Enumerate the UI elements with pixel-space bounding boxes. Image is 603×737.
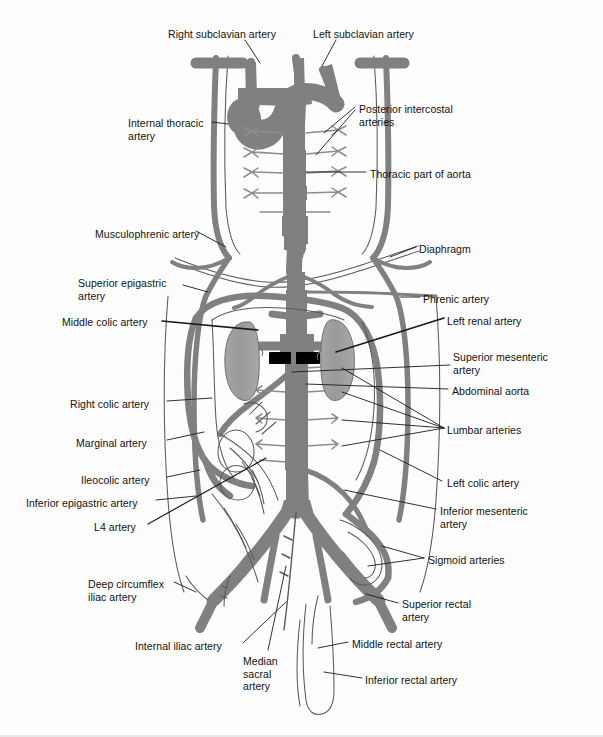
label-inferior-mesenteric-artery: Inferior mesenteric artery	[440, 505, 528, 530]
marker-right-rect	[296, 352, 320, 364]
leader-lumbar-4	[342, 428, 444, 446]
leader-superior-epigastric	[183, 285, 208, 292]
leader-left-subclavian	[322, 40, 336, 66]
label-inferior-epigastric-artery: Inferior epigastric artery	[26, 497, 138, 510]
label-inferior-rectal-artery: Inferior rectal artery	[365, 674, 457, 687]
leader-superior-mesenteric	[292, 365, 450, 372]
label-internal-iliac-artery: Internal iliac artery	[135, 640, 222, 653]
label-musculophrenic-artery: Musculophrenic artery	[95, 228, 199, 241]
phrenic-artery-right	[234, 276, 290, 308]
label-middle-colic-artery: Middle colic artery	[62, 316, 148, 329]
leader-lumbar-1	[342, 368, 444, 428]
leader-internal-iliac	[243, 602, 286, 643]
label-lumbar-arteries: Lumbar arteries	[447, 424, 521, 437]
label-l4-artery: L4 artery	[94, 521, 136, 534]
descending-colon-vessel	[346, 462, 374, 514]
abdominal-aorta-solid	[278, 290, 316, 522]
leader-sigmoid-2	[368, 558, 424, 566]
leader-deep-circumflex	[174, 582, 196, 592]
leader-lumbar-3	[342, 420, 444, 428]
label-superior-rectal-artery: Superior rectal artery	[402, 598, 471, 623]
anatomy-figure-page: Right subclavian artery Internal thoraci…	[0, 0, 603, 737]
marker-left-rect	[269, 352, 291, 364]
leader-lumbar-2	[342, 392, 444, 428]
label-left-subclavian-artery: Left subclavian artery	[313, 28, 414, 41]
label-right-subclavian-artery: Right subclavian artery	[168, 28, 276, 41]
leader-marginal	[167, 432, 204, 440]
left-femoral-artery	[378, 600, 392, 628]
label-right-colic-artery: Right colic artery	[70, 398, 149, 411]
leader-inferior-epigastric	[156, 496, 196, 500]
label-median-sacral-artery: Median sacral artery	[243, 655, 278, 693]
label-superior-mesenteric-artery: Superior mesenteric artery	[453, 351, 548, 376]
label-superior-epigastric-artery: Superior epigastric artery	[78, 277, 167, 302]
label-phrenic-artery: Phrenic artery	[423, 293, 489, 306]
label-left-renal-artery: Left renal artery	[447, 315, 521, 328]
label-deep-circumflex-iliac-artery: Deep circumflex iliac artery	[88, 578, 164, 603]
label-sigmoid-arteries: Sigmoid arteries	[428, 554, 505, 567]
left-kidney	[321, 320, 355, 401]
right-external-iliac-artery	[212, 556, 252, 602]
label-thoracic-part-of-aorta: Thoracic part of aorta	[370, 168, 471, 181]
right-kidney	[225, 322, 259, 400]
label-diaphragm: Diaphragm	[419, 243, 471, 256]
label-internal-thoracic-artery: Internal thoracic artery	[128, 117, 204, 142]
label-marginal-artery: Marginal artery	[76, 437, 147, 450]
leader-posterior-intercostal-2	[316, 110, 355, 155]
internal-thoracic-artery-left	[373, 58, 388, 258]
leader-inferior-rectal	[324, 672, 362, 678]
label-abdominal-aorta: Abdominal aorta	[452, 385, 529, 398]
label-posterior-intercostal-arteries: Posterior intercostal arteries	[359, 103, 453, 128]
internal-thoracic-artery-right	[214, 58, 229, 258]
leader-left-renal	[336, 318, 444, 352]
right-femoral-artery	[200, 600, 214, 628]
label-middle-rectal-artery: Middle rectal artery	[352, 638, 442, 651]
leader-left-colic	[380, 450, 442, 481]
label-left-colic-artery: Left colic artery	[447, 477, 519, 490]
phrenic-artery-left-long	[306, 292, 436, 296]
leader-diaphragm	[390, 247, 416, 257]
label-ileocolic-artery: Ileocolic artery	[81, 474, 150, 487]
